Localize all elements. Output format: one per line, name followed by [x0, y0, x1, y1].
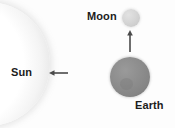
sun-earth-moon-diagram: Sun Earth Moon — [0, 0, 175, 128]
moon-sphere-icon — [122, 9, 140, 27]
moon-label: Moon — [87, 10, 117, 22]
sun-label: Sun — [11, 66, 32, 78]
earth-sphere-icon — [110, 57, 150, 97]
arrow-left-icon — [47, 66, 71, 80]
earth-label: Earth — [135, 99, 164, 111]
arrow-up-icon — [123, 28, 137, 54]
sun-sphere-icon — [0, 2, 50, 126]
